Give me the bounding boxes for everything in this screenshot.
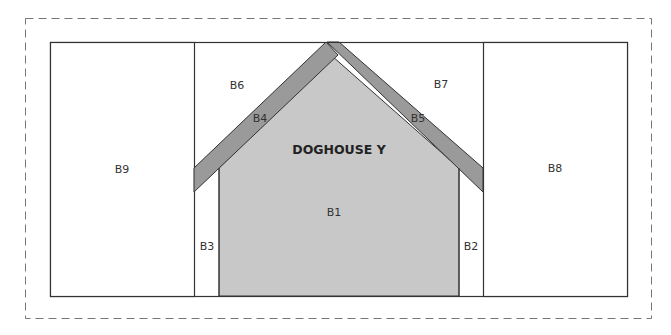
label-b6: B6	[230, 79, 245, 92]
doghouse-block-diagram: B9 B8 B6 B7 B4 B5 DOGHOUSE Y B1 B3 B2	[0, 0, 671, 335]
label-b9: B9	[115, 163, 130, 176]
label-b4: B4	[253, 112, 268, 125]
label-b3: B3	[200, 240, 215, 253]
block-title: DOGHOUSE Y	[292, 142, 386, 157]
label-b8: B8	[548, 162, 563, 175]
label-b1: B1	[327, 206, 342, 219]
label-b7: B7	[434, 78, 449, 91]
label-b2: B2	[464, 240, 479, 253]
label-b5: B5	[411, 112, 426, 125]
